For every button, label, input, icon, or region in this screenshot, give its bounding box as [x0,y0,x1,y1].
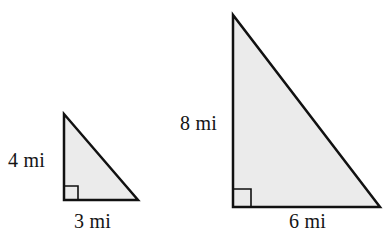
small-triangle-group [64,114,138,200]
geometry-figure: 4 mi 3 mi 8 mi 6 mi [0,0,392,248]
large-triangle-vertical-label: 8 mi [180,113,217,133]
large-triangle-group [233,15,380,207]
large-triangle-shape [233,15,380,207]
small-triangle-horizontal-label: 3 mi [74,211,111,231]
large-triangle-horizontal-label: 6 mi [289,211,326,231]
small-triangle-shape [64,114,138,200]
small-triangle-vertical-label: 4 mi [8,150,45,170]
